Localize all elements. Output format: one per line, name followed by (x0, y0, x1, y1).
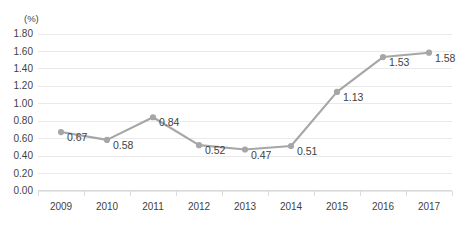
series-marker (288, 143, 294, 149)
x-axis-tick-label: 2012 (188, 201, 211, 212)
data-point-label: 0.47 (251, 149, 272, 161)
y-axis-tick-label: 1.00 (14, 98, 34, 109)
series-marker (104, 137, 110, 143)
x-axis-tick-label: 2013 (234, 201, 257, 212)
series-marker (380, 54, 386, 60)
data-point-label: 1.53 (389, 56, 410, 68)
y-axis-tick-label: 1.20 (14, 80, 34, 91)
series-marker (334, 89, 340, 95)
data-point-label: 0.84 (159, 116, 180, 128)
y-axis-tick-label: 1.80 (14, 28, 34, 39)
y-axis-tick-label: 0.40 (14, 150, 34, 161)
series-marker (150, 114, 156, 120)
y-axis-unit-label: (%) (24, 13, 39, 24)
data-point-label: 0.58 (113, 139, 134, 151)
x-axis-tick-label: 2017 (418, 201, 441, 212)
data-point-label: 0.52 (205, 144, 226, 156)
y-axis-tick-label: 1.40 (14, 63, 34, 74)
x-axis-tick-label: 2014 (280, 201, 303, 212)
y-axis-tick-label: 1.60 (14, 46, 34, 57)
chart-canvas: (%) 1.801.601.401.201.000.800.600.400.20… (0, 0, 466, 229)
data-point-label: 1.13 (343, 91, 364, 103)
x-axis-tick-label: 2015 (326, 201, 349, 212)
x-axis-tick-label: 2010 (96, 201, 119, 212)
x-axis-tick-label: 2016 (372, 201, 395, 212)
x-axis-tick-label: 2011 (142, 201, 164, 212)
data-point-label: 1.58 (435, 52, 456, 64)
data-point-label: 0.67 (67, 131, 88, 143)
x-axis-tick-labels: 200920102011201220132014201520162017 (50, 201, 441, 212)
line-chart: (%) 1.801.601.401.201.000.800.600.400.20… (0, 0, 466, 229)
x-axis-tick-label: 2009 (50, 201, 73, 212)
y-axis-tick-label: 0.20 (14, 168, 34, 179)
y-axis-tick-label: 0.60 (14, 133, 34, 144)
series-marker (196, 142, 202, 148)
y-axis-tick-label: 0.80 (14, 115, 34, 126)
y-axis-tick-label: 0.00 (14, 185, 34, 196)
data-point-label: 0.51 (297, 145, 318, 157)
series-marker (426, 50, 432, 56)
series-marker (58, 129, 64, 135)
series-marker (242, 146, 248, 152)
